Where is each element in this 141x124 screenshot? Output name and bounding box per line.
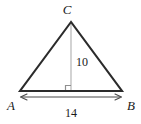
base-length-label: 14 bbox=[65, 106, 77, 120]
vertex-label-a: A bbox=[6, 98, 15, 113]
vertex-label-b: B bbox=[127, 98, 135, 113]
vertex-label-c: C bbox=[63, 2, 72, 17]
triangle-diagram-svg: C A B 10 14 bbox=[0, 0, 141, 124]
altitude-length-label: 10 bbox=[76, 55, 88, 69]
geometry-figure: C A B 10 14 bbox=[0, 0, 141, 124]
